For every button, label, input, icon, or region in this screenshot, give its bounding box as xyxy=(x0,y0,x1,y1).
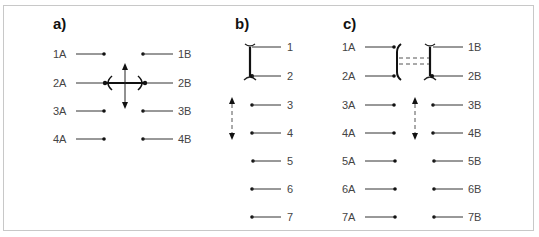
label-c-6b: 6B xyxy=(468,183,481,195)
label-2b: 2B xyxy=(178,77,191,89)
label-c-6a: 6A xyxy=(342,183,356,195)
panel-b-title: b) xyxy=(235,15,249,32)
label-5: 5 xyxy=(287,155,293,167)
panel-c: c) 1A 2A 3A 4A 5A 6A 7A xyxy=(342,15,481,223)
label-6: 6 xyxy=(287,183,293,195)
label-c-5a: 5A xyxy=(342,155,356,167)
panel-a: a) 1A 2A 3A 4A 1B 2B 3B 4B xyxy=(53,15,191,145)
terminal-1a xyxy=(102,52,106,56)
panel-b: b) 1 2 3 4 5 6 7 xyxy=(229,15,293,223)
terminal-c-5a xyxy=(393,159,397,163)
label-c-2a: 2A xyxy=(342,70,356,82)
label-c-7b: 7B xyxy=(468,211,481,223)
terminal-4a xyxy=(102,137,106,141)
panel-c-title: c) xyxy=(343,15,356,32)
label-3b: 3B xyxy=(178,105,191,117)
terminal-3a xyxy=(102,109,106,113)
bridge-1b-2b xyxy=(424,44,436,80)
label-c-4b: 4B xyxy=(468,127,481,139)
terminal-c-1a xyxy=(392,45,396,49)
dashed-link-icon xyxy=(399,58,429,64)
panel-a-title: a) xyxy=(53,15,66,32)
terminal-diagram: a) 1A 2A 3A 4A 1B 2B 3B 4B xyxy=(0,0,539,237)
label-c-2b: 2B xyxy=(468,70,481,82)
bridge-1a-2a xyxy=(397,44,401,80)
label-4: 4 xyxy=(287,127,293,139)
terminal-c-4a xyxy=(392,131,396,135)
four-way-arrow-icon xyxy=(103,63,147,109)
terminal-c-7a xyxy=(393,215,397,219)
label-c-7a: 7A xyxy=(342,211,356,223)
label-c-4a: 4A xyxy=(342,127,356,139)
label-2a: 2A xyxy=(53,77,67,89)
label-4b: 4B xyxy=(178,133,191,145)
label-7: 7 xyxy=(287,211,293,223)
label-c-3a: 3A xyxy=(342,99,356,111)
label-3a: 3A xyxy=(53,105,67,117)
label-4a: 4A xyxy=(53,133,67,145)
label-c-5b: 5B xyxy=(468,155,481,167)
dashed-double-arrow-icon xyxy=(412,97,418,140)
label-3: 3 xyxy=(287,99,293,111)
label-c-3b: 3B xyxy=(468,99,481,111)
label-2: 2 xyxy=(287,70,293,82)
terminal-c-6a xyxy=(393,187,397,191)
terminal-c-3a xyxy=(392,103,396,107)
label-c-1b: 1B xyxy=(468,41,481,53)
label-c-1a: 1A xyxy=(342,41,356,53)
terminal-c-2a xyxy=(392,74,396,78)
label-1b: 1B xyxy=(178,48,191,60)
label-1a: 1A xyxy=(53,48,67,60)
bridge-1-2 xyxy=(244,44,256,80)
label-1: 1 xyxy=(287,41,293,53)
dashed-double-arrow-icon xyxy=(229,97,235,140)
